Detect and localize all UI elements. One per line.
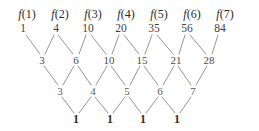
connector-line xyxy=(190,35,206,54)
connector-line xyxy=(44,66,58,85)
third-difference-row-value: 1 xyxy=(107,113,113,125)
first-difference-row-value: 6 xyxy=(73,55,79,66)
connector-line xyxy=(95,97,108,113)
third-difference-row-value: 1 xyxy=(140,113,146,125)
connector-line xyxy=(162,97,175,113)
connector-line xyxy=(63,66,74,85)
values-row-value: 4 xyxy=(53,23,59,35)
connector-line xyxy=(45,35,54,54)
connector-line xyxy=(212,35,218,54)
second-difference-row-value: 7 xyxy=(190,86,196,97)
function-label-2: f(2) xyxy=(51,8,68,20)
connector-line xyxy=(145,35,152,54)
connector-line xyxy=(26,35,40,54)
difference-triangle-diagram: f(1)f(2)f(3)f(4)f(5)f(6)f(7)141020355684… xyxy=(0,0,259,131)
connector-line xyxy=(124,35,139,54)
values-row-value: 20 xyxy=(115,23,127,35)
values-row-value: 1 xyxy=(20,23,26,35)
connector-line xyxy=(62,97,74,113)
values-row-value: 84 xyxy=(214,23,226,35)
connector-line xyxy=(79,97,91,113)
values-row-value: 10 xyxy=(82,23,94,35)
second-difference-row-value: 4 xyxy=(90,86,96,97)
function-label-5: f(5) xyxy=(150,8,167,20)
connector-line xyxy=(129,97,141,113)
function-label-3: f(3) xyxy=(84,8,101,20)
values-row-value: 56 xyxy=(181,23,193,35)
connector-line xyxy=(58,35,73,54)
connector-line xyxy=(79,35,86,54)
values-row-value: 35 xyxy=(148,23,160,35)
function-label-1: f(1) xyxy=(18,8,35,20)
connector-line xyxy=(111,66,125,85)
first-difference-row-value: 3 xyxy=(39,55,45,66)
function-label-7: f(7) xyxy=(216,8,233,20)
connector-line xyxy=(178,66,191,85)
connector-line xyxy=(113,97,125,113)
connector-line xyxy=(146,97,158,113)
second-difference-row-value: 6 xyxy=(157,86,163,97)
connector-line xyxy=(196,66,207,85)
connector-line xyxy=(78,66,91,85)
second-difference-row-value: 3 xyxy=(57,86,63,97)
function-label-6: f(6) xyxy=(183,8,200,20)
first-difference-row-value: 15 xyxy=(137,55,148,66)
first-difference-row-value: 21 xyxy=(171,55,182,66)
function-label-4: f(4) xyxy=(117,8,134,20)
third-difference-row-value: 1 xyxy=(73,113,79,125)
connector-line xyxy=(144,66,158,85)
first-difference-row-value: 10 xyxy=(104,55,115,66)
connector-line xyxy=(130,66,140,85)
first-difference-row-value: 28 xyxy=(204,55,215,66)
connector-line xyxy=(179,35,185,54)
connector-line xyxy=(180,97,191,113)
third-difference-row-value: 1 xyxy=(174,113,180,125)
connector-line xyxy=(91,35,106,54)
second-difference-row-value: 5 xyxy=(124,86,130,97)
connector-line xyxy=(163,66,174,85)
connector-line xyxy=(157,35,173,54)
connector-line xyxy=(112,35,119,54)
connector-line xyxy=(96,66,107,85)
